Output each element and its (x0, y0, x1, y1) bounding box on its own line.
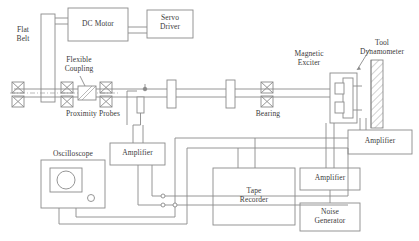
label-dc-motor: DC Motor (68, 20, 128, 29)
label-noise-generator: Noise Generator (300, 208, 360, 225)
flexible-coupling (78, 86, 96, 100)
label-amplifier-right: Amplifier (348, 137, 412, 146)
oscilloscope-screen (50, 168, 82, 192)
magnetic-exciter-core (343, 78, 353, 118)
coupling-leader (80, 76, 85, 86)
tool-dynamometer-wall (371, 60, 383, 128)
label-tool-dynamometer: Tool Dynamometer (345, 39, 419, 56)
label-bearing: Bearing (235, 110, 301, 119)
label-tape-recorder: Tape Recorder (213, 187, 295, 204)
label-flat-belt: Flat Belt (8, 26, 38, 43)
label-oscilloscope: Oscilloscope (39, 150, 107, 159)
magnetic-exciter-coil-lower (335, 102, 344, 113)
diagram-canvas: Flat Belt DC Motor Servo Driver Flexible… (0, 0, 419, 241)
schematic-svg (0, 0, 419, 241)
junction-node-2 (161, 203, 165, 207)
junction-node-1 (161, 194, 165, 198)
label-amplifier-bottom: Amplifier (300, 174, 360, 183)
proximity-probe-body (137, 97, 144, 113)
junction-node-3 (173, 203, 177, 207)
label-proximity-probes: Proximity Probes (48, 110, 138, 119)
shaft-disc-2 (226, 80, 235, 108)
label-amplifier-left: Amplifier (110, 149, 165, 158)
label-flexible-coupling: Flexible Coupling (44, 56, 114, 73)
label-magnetic-exciter: Magnetic Exciter (281, 50, 337, 67)
shaft-disc-1 (167, 80, 176, 108)
label-servo-driver: Servo Driver (147, 14, 193, 31)
magnetic-exciter-coil-upper (335, 83, 344, 94)
